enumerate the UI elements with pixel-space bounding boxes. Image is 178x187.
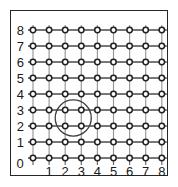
lattice-point xyxy=(159,123,164,128)
lattice-point xyxy=(46,75,51,80)
lattice-point xyxy=(159,75,164,80)
lattice-point xyxy=(62,107,67,112)
lattice-point xyxy=(62,91,67,96)
lattice-point xyxy=(30,91,35,96)
lattice-point xyxy=(62,155,67,160)
lattice-point xyxy=(143,123,148,128)
y-axis-tick-label: 3 xyxy=(12,104,24,117)
origin-label: 0 xyxy=(14,157,26,170)
lattice-point xyxy=(127,123,132,128)
lattice-point xyxy=(159,139,164,144)
lattice-figure: 87654321 12345678 0 xyxy=(0,0,178,187)
lattice-point xyxy=(62,123,67,128)
lattice-point xyxy=(46,107,51,112)
lattice-point-markers xyxy=(30,27,164,160)
lattice-point xyxy=(95,59,100,64)
lattice-point xyxy=(95,123,100,128)
lattice-point xyxy=(95,107,100,112)
lattice-point xyxy=(79,155,84,160)
lattice-point xyxy=(30,155,35,160)
y-axis-tick-label: 5 xyxy=(12,72,24,85)
lattice-point xyxy=(95,75,100,80)
y-axis-tick-label: 1 xyxy=(12,136,24,149)
lattice-point xyxy=(46,91,51,96)
lattice-point xyxy=(62,139,67,144)
lattice-point xyxy=(46,123,51,128)
lattice-point xyxy=(30,43,35,48)
lattice-point xyxy=(30,107,35,112)
lattice-point xyxy=(95,91,100,96)
lattice-point xyxy=(111,107,116,112)
x-axis-tick-label: 1 xyxy=(43,165,55,178)
lattice-point xyxy=(143,91,148,96)
lattice-point xyxy=(79,59,84,64)
lattice-point xyxy=(62,27,67,32)
y-axis-tick-label: 8 xyxy=(12,24,24,37)
lattice-point xyxy=(143,139,148,144)
lattice-point xyxy=(62,75,67,80)
lattice-plot-svg xyxy=(0,0,178,187)
x-axis-tick-label: 7 xyxy=(140,165,152,178)
lattice-point xyxy=(62,59,67,64)
y-axis-tick-label: 2 xyxy=(12,120,24,133)
lattice-point xyxy=(143,59,148,64)
lattice-point xyxy=(111,75,116,80)
lattice-point xyxy=(30,59,35,64)
y-axis-tick-label: 4 xyxy=(12,88,24,101)
lattice-point xyxy=(111,139,116,144)
x-axis-tick-label: 3 xyxy=(75,165,87,178)
lattice-point xyxy=(127,59,132,64)
lattice-point xyxy=(111,43,116,48)
lattice-point xyxy=(30,139,35,144)
lattice-point xyxy=(127,43,132,48)
y-axis-tick-label: 6 xyxy=(12,56,24,69)
lattice-point xyxy=(127,139,132,144)
lattice-point xyxy=(46,139,51,144)
x-axis-tick-label: 2 xyxy=(59,165,71,178)
lattice-point xyxy=(127,75,132,80)
x-axis-tick-label: 8 xyxy=(156,165,168,178)
lattice-point xyxy=(111,91,116,96)
lattice-point xyxy=(159,43,164,48)
x-axis-tick-label: 5 xyxy=(108,165,120,178)
lattice-point xyxy=(30,123,35,128)
lattice-point xyxy=(46,155,51,160)
lattice-point xyxy=(95,155,100,160)
lattice-point xyxy=(143,75,148,80)
lattice-point xyxy=(62,43,67,48)
lattice-point xyxy=(95,139,100,144)
lattice-point xyxy=(143,155,148,160)
lattice-point xyxy=(30,75,35,80)
lattice-point xyxy=(79,91,84,96)
lattice-point xyxy=(143,107,148,112)
lattice-point xyxy=(159,107,164,112)
highlight-circle-annotation xyxy=(55,100,91,136)
lattice-point xyxy=(111,27,116,32)
lattice-point xyxy=(46,59,51,64)
lattice-point xyxy=(127,91,132,96)
lattice-point xyxy=(127,27,132,32)
lattice-point xyxy=(79,107,84,112)
x-axis-tick-label: 4 xyxy=(91,165,103,178)
lattice-point xyxy=(111,123,116,128)
lattice-point xyxy=(143,43,148,48)
region-highlight-circle xyxy=(55,100,91,136)
lattice-point xyxy=(159,91,164,96)
lattice-point xyxy=(46,43,51,48)
lattice-point xyxy=(143,27,148,32)
lattice-point xyxy=(159,27,164,32)
lattice-point xyxy=(95,43,100,48)
lattice-point xyxy=(159,155,164,160)
lattice-point xyxy=(79,27,84,32)
lattice-point xyxy=(95,27,100,32)
lattice-point xyxy=(46,27,51,32)
y-axis-tick-label: 7 xyxy=(12,40,24,53)
lattice-point xyxy=(79,43,84,48)
lattice-point xyxy=(111,59,116,64)
lattice-point xyxy=(79,75,84,80)
lattice-point xyxy=(79,123,84,128)
x-axis-tick-label: 6 xyxy=(124,165,136,178)
lattice-point xyxy=(30,27,35,32)
lattice-point xyxy=(127,155,132,160)
lattice-point xyxy=(111,155,116,160)
